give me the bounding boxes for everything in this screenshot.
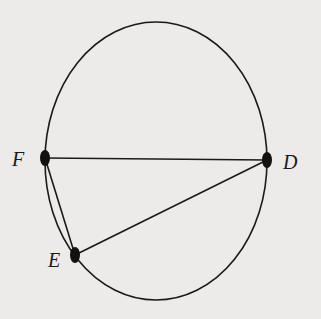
point-f-dot xyxy=(40,150,50,166)
label-f: F xyxy=(12,149,24,169)
point-d-dot xyxy=(262,152,272,168)
label-e: E xyxy=(48,250,60,270)
diagram-canvas xyxy=(0,0,321,319)
segment-ef xyxy=(45,158,75,255)
segment-fd xyxy=(45,158,267,160)
point-e-dot xyxy=(70,247,80,263)
segment-de xyxy=(75,160,267,255)
label-d: D xyxy=(283,152,297,172)
